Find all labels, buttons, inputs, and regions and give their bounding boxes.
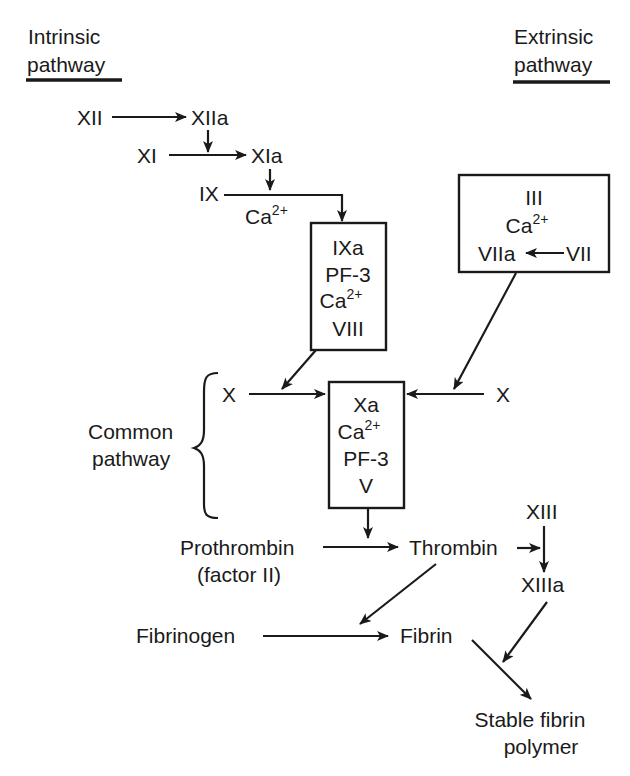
prothrombin-label: Prothrombin bbox=[180, 536, 294, 559]
factor-xiii: XIII bbox=[526, 500, 558, 523]
ix-cofactor-calcium: Ca2+ bbox=[245, 202, 288, 228]
factor-xii: XII bbox=[77, 106, 103, 129]
extrinsic-viia: VIIa bbox=[478, 242, 516, 265]
factor-xiia: XIIa bbox=[191, 106, 229, 129]
arrow-thrombin-catalyzes-fibrin bbox=[360, 564, 436, 624]
arrow-tenase-activates-x bbox=[282, 350, 316, 389]
prothrombinase-v: V bbox=[359, 474, 373, 497]
factor-ix: IX bbox=[199, 182, 219, 205]
tenase-pf3: PF-3 bbox=[325, 263, 371, 286]
factor-ii-label: (factor II) bbox=[197, 563, 281, 586]
tenase-ixa: IXa bbox=[332, 236, 364, 259]
intrinsic-heading-line2: pathway bbox=[27, 53, 106, 76]
extrinsic-pathway-heading: Extrinsic pathway bbox=[513, 25, 610, 82]
prothrombinase-pf3: PF-3 bbox=[343, 447, 389, 470]
tenase-complex-box: IXa PF-3 Ca2+ VIII bbox=[311, 223, 386, 350]
thrombin-label: Thrombin bbox=[409, 536, 498, 559]
factor-xi: XI bbox=[137, 144, 157, 167]
extrinsic-complex-box: III Ca2+ VIIa VII bbox=[459, 175, 609, 272]
polymer-label: polymer bbox=[504, 735, 579, 758]
coagulation-cascade-diagram: Intrinsic pathway Extrinsic pathway XII … bbox=[0, 0, 630, 776]
fibrin-label: Fibrin bbox=[400, 624, 453, 647]
extrinsic-vii: VII bbox=[566, 242, 592, 265]
extrinsic-factor-iii: III bbox=[525, 186, 543, 209]
intrinsic-pathway-heading: Intrinsic pathway bbox=[26, 25, 122, 80]
arrow-xiiia-catalyzes-polymer bbox=[503, 602, 547, 662]
extrinsic-heading-line2: pathway bbox=[514, 53, 593, 76]
factor-x-right: X bbox=[496, 383, 510, 406]
tenase-viii: VIII bbox=[332, 317, 364, 340]
factor-x-left: X bbox=[222, 383, 236, 406]
prothrombinase-xa: Xa bbox=[353, 393, 379, 416]
factor-xiiia: XIIIa bbox=[521, 573, 565, 596]
intrinsic-heading-line1: Intrinsic bbox=[28, 25, 100, 48]
common-heading-line1: Common bbox=[88, 420, 173, 443]
common-pathway-brace bbox=[194, 373, 218, 518]
factor-xia: XIa bbox=[251, 144, 283, 167]
arrow-fibrin-to-stable-polymer bbox=[472, 640, 531, 699]
fibrinogen-label: Fibrinogen bbox=[136, 624, 235, 647]
prothrombinase-complex-box: Xa Ca2+ PF-3 V bbox=[329, 382, 404, 508]
common-heading-line2: pathway bbox=[92, 447, 171, 470]
arrow-extrinsic-activates-x bbox=[454, 273, 516, 389]
stable-fibrin-label: Stable fibrin bbox=[475, 708, 586, 731]
extrinsic-heading-line1: Extrinsic bbox=[514, 25, 593, 48]
